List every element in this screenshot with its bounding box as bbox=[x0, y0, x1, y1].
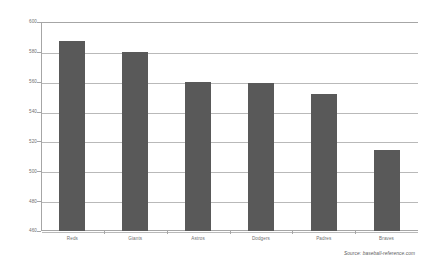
x-tick-mark bbox=[230, 231, 231, 234]
y-tick-label: 480 bbox=[9, 199, 37, 204]
bar[interactable] bbox=[122, 52, 148, 231]
bar-chart: 600580560540520500480460 RedsGiantsAstro… bbox=[0, 0, 427, 267]
x-tick-mark bbox=[292, 231, 293, 234]
source-note: Source: baseball-reference.com bbox=[344, 250, 415, 257]
x-tick-mark bbox=[104, 231, 105, 234]
x-tick-label: Padres bbox=[292, 236, 355, 242]
bar[interactable] bbox=[248, 83, 274, 231]
y-tick-label: 580 bbox=[9, 49, 37, 54]
y-tick-label: 460 bbox=[9, 228, 37, 233]
y-tick-label: 540 bbox=[9, 109, 37, 114]
bar[interactable] bbox=[185, 82, 211, 231]
x-tick-mark bbox=[167, 231, 168, 234]
bar[interactable] bbox=[374, 150, 400, 231]
y-tick-label: 560 bbox=[9, 79, 37, 84]
bar[interactable] bbox=[59, 41, 85, 231]
bar[interactable] bbox=[311, 94, 337, 231]
x-tick-label: Giants bbox=[104, 236, 167, 242]
bars-layer bbox=[41, 22, 418, 231]
x-tick-label: Dodgers bbox=[230, 236, 293, 242]
y-tick-mark bbox=[37, 231, 41, 232]
x-tick-label: Reds bbox=[41, 236, 104, 242]
y-tick-label: 500 bbox=[9, 169, 37, 174]
x-tick-label: Braves bbox=[355, 236, 418, 242]
x-tick-mark bbox=[355, 231, 356, 234]
x-tick-label: Astros bbox=[167, 236, 230, 242]
y-tick-label: 600 bbox=[9, 19, 37, 24]
y-tick-label: 520 bbox=[9, 139, 37, 144]
